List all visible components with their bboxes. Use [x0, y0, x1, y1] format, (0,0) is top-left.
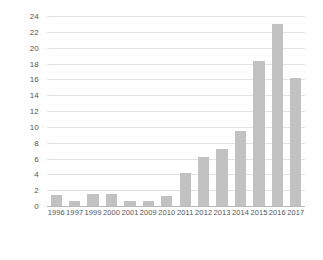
y-axis-tick-label: 14	[30, 91, 39, 100]
y-axis-tick-label: 20	[30, 43, 39, 52]
bar	[161, 196, 172, 206]
bar	[106, 194, 117, 206]
y-axis-tick-label: 6	[34, 154, 39, 163]
x-axis-tick-label: 2011	[177, 208, 194, 217]
x-axis-tick-label: 2015	[250, 208, 267, 217]
y-axis-tick-label: 12	[30, 107, 39, 116]
plot-area	[47, 16, 305, 206]
y-axis-tick-label: 2	[34, 186, 39, 195]
y-axis-tick-label: 18	[30, 59, 39, 68]
x-axis-tick-label: 2001	[121, 208, 138, 217]
x-axis-tick-label: 1999	[85, 208, 102, 217]
bar	[69, 201, 80, 206]
y-axis-tick-label: 4	[34, 170, 39, 179]
x-axis-line	[47, 206, 305, 207]
bar	[253, 61, 264, 206]
bar	[198, 157, 209, 206]
bar	[180, 173, 191, 206]
bar	[290, 78, 301, 206]
x-axis-tick-label: 2017	[287, 208, 304, 217]
bar-series	[47, 16, 305, 206]
y-axis-tick-label: 24	[30, 12, 39, 21]
x-axis-tick-label: 2013	[214, 208, 231, 217]
x-axis-tick-label: 2012	[195, 208, 212, 217]
x-axis-tick-label: 2014	[232, 208, 249, 217]
bar-chart: 024681012141618202224 199619971999200020…	[0, 0, 323, 260]
x-axis-tick-labels: 1996199719992000200120092010201120122013…	[47, 208, 305, 226]
bar	[51, 195, 62, 206]
y-axis-tick-label: 16	[30, 75, 39, 84]
bar	[235, 131, 246, 206]
x-axis-tick-label: 2016	[269, 208, 286, 217]
bar	[143, 201, 154, 206]
x-axis-tick-label: 2010	[158, 208, 175, 217]
x-axis-tick-label: 1997	[66, 208, 83, 217]
y-axis-tick-label: 10	[30, 122, 39, 131]
bar	[272, 24, 283, 206]
x-axis-tick-label: 2009	[140, 208, 157, 217]
y-axis-tick-label: 8	[34, 138, 39, 147]
x-axis-tick-label: 2000	[103, 208, 120, 217]
x-axis-tick-label: 1996	[48, 208, 65, 217]
y-axis-tick-label: 0	[34, 202, 39, 211]
y-axis-tick-label: 22	[30, 27, 39, 36]
bar	[124, 201, 135, 206]
y-axis-tick-labels: 024681012141618202224	[0, 16, 44, 206]
bar	[216, 149, 227, 206]
bar	[87, 194, 98, 206]
